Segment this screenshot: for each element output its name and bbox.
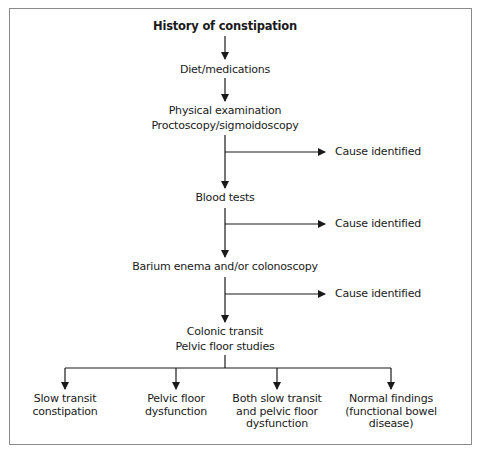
node-diet-medications: Diet/medications: [180, 62, 270, 77]
outcome-text: Slow transit: [32, 393, 97, 406]
node-text: Blood tests: [195, 190, 254, 205]
node-title-text: History of constipation: [153, 19, 297, 34]
branch-cause-identified-1: Cause identified: [335, 144, 421, 159]
node-colonic-transit: Colonic transit Pelvic floor studies: [175, 324, 274, 354]
node-text: Pelvic floor studies: [175, 339, 274, 354]
outcome-text: Pelvic floor: [145, 393, 207, 406]
outcome-text: dysfunction: [145, 406, 207, 419]
outcome-text: dysfunction: [232, 418, 321, 431]
branch-cause-identified-2: Cause identified: [335, 216, 421, 231]
outcome-normal-findings: Normal findings (functional bowel diseas…: [345, 393, 437, 431]
node-text: Diet/medications: [180, 62, 270, 77]
outcome-pelvic-floor: Pelvic floor dysfunction: [145, 393, 207, 418]
node-blood-tests: Blood tests: [195, 190, 254, 205]
branch-cause-identified-3: Cause identified: [335, 286, 421, 301]
node-barium-enema: Barium enema and/or colonoscopy: [132, 259, 318, 274]
node-physical-examination: Physical examination Proctoscopy/sigmoid…: [151, 103, 298, 133]
node-text: Barium enema and/or colonoscopy: [132, 259, 318, 274]
node-text: Physical examination: [151, 103, 298, 118]
outcome-slow-transit: Slow transit constipation: [32, 393, 97, 418]
outcome-text: disease): [345, 418, 437, 431]
node-text: Proctoscopy/sigmoidoscopy: [151, 118, 298, 133]
node-text: Colonic transit: [175, 324, 274, 339]
outcome-text: constipation: [32, 406, 97, 419]
node-history-of-constipation: History of constipation: [153, 19, 297, 34]
outcome-text: Both slow transit: [232, 393, 321, 406]
outcome-both: Both slow transit and pelvic floor dysfu…: [232, 393, 321, 431]
outcome-text: Normal findings: [345, 393, 437, 406]
